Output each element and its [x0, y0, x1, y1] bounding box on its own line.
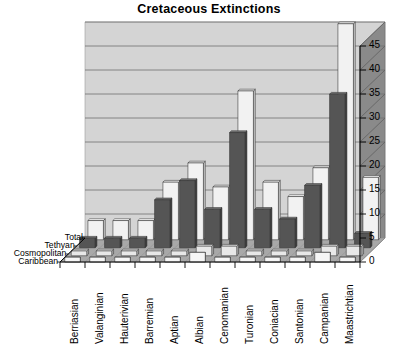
bar-tethyan-santonian — [305, 184, 322, 248]
category-label-coniacian: Coniacian — [269, 300, 280, 344]
chart-canvas — [0, 0, 418, 350]
y-axis-tick-label: 10 — [369, 207, 391, 218]
bar-caribbean-berriasian — [65, 257, 81, 262]
y-axis-tick-label: 5 — [369, 231, 391, 242]
category-label-cenomanian: Cenomanian — [219, 287, 230, 344]
bar-cosmopolitan-aptian — [171, 249, 188, 256]
y-axis-tick-label: 40 — [369, 63, 391, 74]
y-axis-tick-label: 20 — [369, 159, 391, 170]
category-label-berriasian: Berriasian — [69, 299, 80, 344]
y-axis-tick-label: 35 — [369, 87, 391, 98]
bar-cosmopolitan-barremian — [146, 249, 163, 256]
bar-tethyan-albian — [205, 208, 222, 248]
category-label-campanian: Campanian — [319, 293, 330, 344]
bar-cosmopolitan-cenomanian — [221, 244, 238, 255]
bar-caribbean-coniacian — [265, 257, 281, 262]
bar-caribbean-albian — [190, 252, 206, 262]
y-axis-tick-label: 30 — [369, 111, 391, 122]
bar-cosmopolitan-coniacian — [271, 249, 288, 256]
bar-caribbean-campanian — [315, 252, 331, 262]
category-label-maastrichtian: Maastrichtian — [344, 285, 355, 344]
bar-caribbean-maastrichtian — [340, 257, 356, 262]
bar-cosmopolitan-turonian — [246, 249, 263, 256]
bar-caribbean-cenomanian — [215, 257, 231, 262]
bar-cosmopolitan-valanginian — [96, 249, 113, 256]
category-label-aptian: Aptian — [169, 316, 180, 344]
bar-caribbean-santonian — [290, 257, 306, 262]
bar-tethyan-turonian — [255, 208, 272, 248]
category-label-santonian: Santonian — [294, 299, 305, 344]
category-label-albian: Albian — [194, 316, 205, 344]
bar-tethyan-coniacian — [280, 217, 297, 248]
bar-cosmopolitan-hauterivian — [121, 249, 138, 256]
category-label-valanginian: Valanginian — [94, 292, 105, 344]
bar-caribbean-barremian — [140, 257, 156, 262]
category-label-turonian: Turonian — [244, 305, 255, 344]
bar-caribbean-turonian — [240, 257, 256, 262]
bar-tethyan-campanian — [330, 92, 347, 247]
bar-cosmopolitan-berriasian — [71, 249, 88, 256]
bar-tethyan-valanginian — [105, 236, 122, 247]
category-label-barremian: Barremian — [144, 298, 155, 344]
series-label-caribbean: Caribbean — [18, 256, 58, 266]
bar-cosmopolitan-santonian — [296, 249, 313, 256]
bar-caribbean-valanginian — [90, 257, 106, 262]
bar-cosmopolitan-maastrichtian — [346, 244, 363, 255]
bar-tethyan-cenomanian — [230, 131, 247, 248]
bar-tethyan-hauterivian — [130, 236, 147, 247]
chart-3d-scene — [0, 0, 418, 350]
y-axis-tick-label: 15 — [369, 183, 391, 194]
category-label-hauterivian: Hauterivian — [119, 293, 130, 344]
chart-root: Cretaceous Extinctions 05101520253035404… — [0, 0, 418, 350]
bar-tethyan-barremian — [155, 198, 172, 248]
y-axis-tick-label: 0 — [369, 255, 391, 266]
bar-caribbean-aptian — [165, 257, 181, 262]
bar-tethyan-aptian — [180, 179, 197, 248]
bar-caribbean-hauterivian — [115, 257, 131, 262]
y-axis-tick-label: 45 — [369, 39, 391, 50]
y-axis-tick-label: 25 — [369, 135, 391, 146]
